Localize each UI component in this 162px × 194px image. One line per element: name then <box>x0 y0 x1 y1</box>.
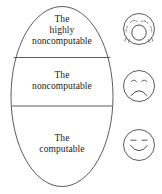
face-icons-column <box>0 0 162 194</box>
happy-face-icon <box>124 130 155 161</box>
distressed-face-icon <box>124 14 155 45</box>
sad-face-icon <box>124 71 155 102</box>
computability-hierarchy-figure: The highly noncomputable The noncomputab… <box>0 0 162 194</box>
